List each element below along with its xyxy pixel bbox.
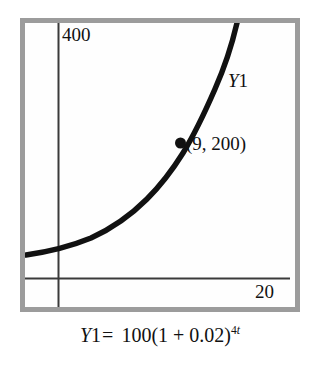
- plot-surface: [25, 23, 295, 307]
- figure-container: 400 Y1 (9, 200) 20 Y1=100(1 + 0.02)4t: [0, 0, 320, 377]
- equation-equals: =: [101, 324, 115, 346]
- series-label: Y1: [228, 71, 248, 90]
- plot-svg: [25, 23, 295, 307]
- series-label-index: 1: [239, 70, 249, 91]
- equation-lhs-index: 1: [91, 324, 101, 346]
- equation-expression: 100(1 + 0.02): [121, 324, 231, 346]
- point-annotation-label: (9, 200): [186, 134, 246, 153]
- y-axis-max-label: 400: [62, 25, 91, 44]
- equation-caption: Y1=100(1 + 0.02)4t: [0, 325, 320, 345]
- data-point-marker: [175, 138, 186, 149]
- equation-exponent: 4t: [231, 324, 240, 337]
- x-axis-max-label: 20: [255, 282, 274, 301]
- equation-lhs-var: Y: [80, 324, 91, 346]
- equation-exponent-var: t: [237, 324, 240, 337]
- series-label-var: Y: [228, 70, 239, 91]
